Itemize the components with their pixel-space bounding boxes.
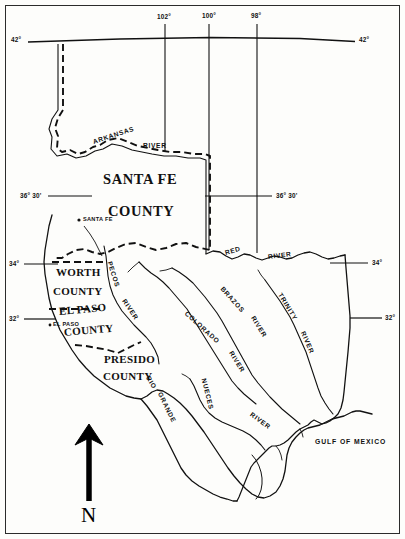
trinity-tributary <box>258 270 265 280</box>
colorado-tributary <box>128 262 139 272</box>
trinity-river <box>258 270 333 414</box>
map-page: 102° 100° 98° 42° 42° 36° 30' 36° 30' 34… <box>0 0 405 539</box>
santa-fe-dashed-outline <box>55 44 210 258</box>
rio-grande-river <box>141 399 237 501</box>
north-arrow-icon <box>75 424 103 501</box>
texas-east-boundary <box>334 255 350 418</box>
trinity-river-path <box>265 280 333 414</box>
coast-bay-detail <box>276 446 282 460</box>
red-river-border <box>206 251 345 260</box>
el-paso-city-dot <box>49 324 52 327</box>
map-drawing <box>0 0 405 539</box>
presido-east-boundary <box>118 342 141 353</box>
lat-line-42 <box>28 38 355 43</box>
coastline-path <box>237 418 334 501</box>
santa-fe-city-dot <box>77 218 80 221</box>
brazos-river <box>160 268 300 424</box>
el-paso-presido-divider <box>75 345 118 353</box>
longitude-lines <box>165 24 257 253</box>
city-markers <box>49 218 81 326</box>
colorado-river-path <box>139 262 256 404</box>
texas-east-border <box>206 251 350 418</box>
county-division-lines <box>49 262 141 353</box>
santa-fe-solid-outline <box>49 44 206 254</box>
nueces-tributary <box>182 374 190 379</box>
nueces-river-path <box>190 379 265 450</box>
santa-fe-county-boundary <box>49 44 210 258</box>
nueces-river <box>182 374 265 450</box>
latitude-lines <box>24 38 382 320</box>
barrier-island-1 <box>252 455 262 499</box>
brazos-river-path <box>172 268 300 424</box>
rio-grande-path <box>141 399 237 501</box>
gulf-coastline <box>237 418 334 501</box>
brazos-tributary <box>160 268 172 271</box>
